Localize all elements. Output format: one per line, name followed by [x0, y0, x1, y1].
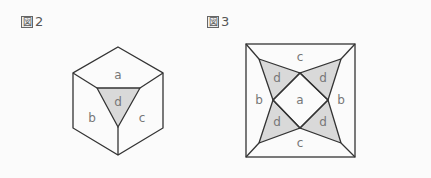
region-d-label: d — [114, 95, 122, 109]
region-d-bl-label: d — [273, 115, 281, 129]
region-a-center-label: a — [296, 93, 303, 107]
figures-canvas: a b c d c c b b a d d d d — [0, 0, 431, 178]
region-b-left-label: b — [255, 93, 263, 107]
region-a-label: a — [114, 68, 121, 82]
region-d-br-label: d — [319, 115, 327, 129]
region-c-top-label: c — [297, 50, 304, 64]
region-d-tl-label: d — [273, 71, 281, 85]
region-c-label: c — [139, 111, 146, 125]
region-b-label: b — [88, 111, 96, 125]
region-c-bottom-label: c — [297, 136, 304, 150]
region-b-right-label: b — [337, 93, 345, 107]
region-d-tr-label: d — [319, 71, 327, 85]
